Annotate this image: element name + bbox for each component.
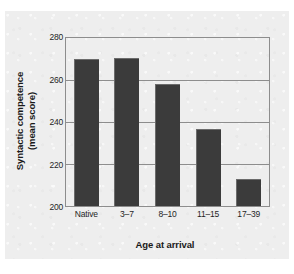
x-tick-label-3-7: 3–7 — [107, 209, 148, 219]
y-tick-label-260: 260 — [37, 75, 63, 85]
x-tick-label-17-39: 17–39 — [228, 209, 269, 219]
figure-root: Syntactic competence (mean score) 280 26… — [0, 0, 294, 274]
bar-3-7 — [114, 58, 139, 206]
x-tick-label-11-15: 11–15 — [188, 209, 229, 219]
bar-17-39 — [236, 179, 261, 206]
bar-11-15 — [196, 129, 221, 206]
y-tick-label-200: 200 — [37, 202, 63, 212]
x-axis-tick-labels: Native 3–7 8–10 11–15 17–39 — [66, 209, 269, 225]
bar-8-10 — [155, 84, 180, 206]
x-tick-label-8-10: 8–10 — [147, 209, 188, 219]
x-axis-title: Age at arrival — [60, 239, 270, 250]
y-tick-label-240: 240 — [37, 117, 63, 127]
y-axis-title-line-1: Syntactic competence — [14, 72, 26, 170]
bar-native — [74, 59, 99, 206]
y-tick-label-220: 220 — [37, 160, 63, 170]
y-axis-tick-labels: 280 260 240 220 200 — [33, 37, 63, 207]
y-tick-label-280: 280 — [37, 32, 63, 42]
x-tick-label-native: Native — [66, 209, 107, 219]
bar-series — [66, 38, 269, 206]
